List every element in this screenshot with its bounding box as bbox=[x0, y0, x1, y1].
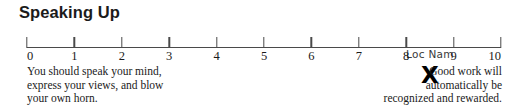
axis-tick-label: 7 bbox=[356, 49, 362, 63]
axis-tick bbox=[168, 37, 169, 48]
anchor-left-line-2: express your views, and blow bbox=[27, 79, 257, 93]
axis-tick bbox=[263, 37, 264, 48]
anchor-left-line-3: your own horn. bbox=[27, 92, 257, 106]
axis-tick bbox=[74, 37, 75, 48]
axis-tick-label: 0 bbox=[27, 49, 33, 63]
axis-tick bbox=[453, 37, 454, 48]
anchor-right-line-2: automatically be bbox=[252, 79, 502, 93]
axis-tick-label: 4 bbox=[213, 49, 219, 63]
axis-tick-label: 1 bbox=[71, 49, 77, 63]
axis-tick bbox=[121, 37, 122, 48]
axis-tick bbox=[358, 37, 359, 48]
axis-tick bbox=[311, 37, 312, 48]
axis-tick-label: 2 bbox=[119, 49, 125, 63]
anchor-right-line-1: Good work will bbox=[252, 65, 502, 79]
axis-tick-label: 3 bbox=[166, 49, 172, 63]
axis-tick-label: 9 bbox=[450, 49, 456, 63]
axis-tick-labels: 0 1 2 3 4 5 6 7 8 9 10 bbox=[27, 49, 501, 64]
axis-tick-label: 5 bbox=[261, 49, 267, 63]
figure-title: Speaking Up bbox=[19, 3, 120, 22]
anchor-description-left: You should speak your mind, express your… bbox=[27, 65, 257, 106]
anchor-description-right: Good work will automatically be recogniz… bbox=[252, 65, 502, 106]
axis-tick bbox=[500, 37, 501, 48]
axis-tick-label: 6 bbox=[308, 49, 314, 63]
axis-tick bbox=[216, 37, 217, 48]
axis-tick-label: 10 bbox=[489, 49, 502, 63]
axis-tick bbox=[26, 37, 27, 48]
axis-tick-label: 8 bbox=[403, 49, 409, 63]
speaking-up-scale-figure: Speaking Up Loc Nam X 0 1 2 3 4 5 6 7 8 … bbox=[0, 0, 531, 110]
anchor-right-line-3: recognized and rewarded. bbox=[252, 92, 502, 106]
rating-scale-axis: Loc Nam X bbox=[27, 34, 501, 48]
axis-tick bbox=[405, 37, 406, 48]
anchor-left-line-1: You should speak your mind, bbox=[27, 65, 257, 79]
